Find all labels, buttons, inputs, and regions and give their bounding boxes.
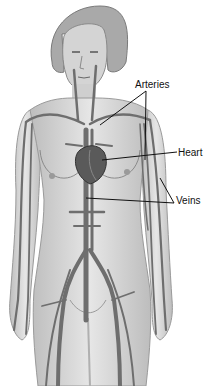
label-veins: Veins [176,196,200,206]
head [63,24,107,90]
circulatory-diagram: Arteries Heart Veins [0,0,213,386]
label-heart: Heart [178,148,202,158]
body-illustration [0,0,213,386]
label-arteries: Arteries [135,80,169,90]
